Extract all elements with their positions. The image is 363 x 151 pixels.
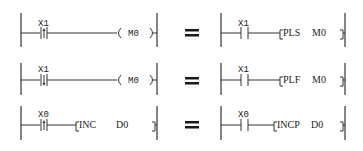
bracket-close-icon [340,122,343,131]
row-2-right: X1 PLF M0 [221,63,345,95]
row-3-left: X0 INC D0 [21,106,157,140]
equals-sign-icon [185,77,199,85]
row-3-right: X0 INCP D0 [221,106,345,140]
bracket-close-icon [152,122,155,131]
coil-close-icon [150,28,153,38]
equals-sign-icon [185,121,199,129]
operand-label: D0 [311,119,323,130]
bracket-close-icon [340,77,343,86]
row-2-left: X1 M0 [21,63,157,95]
contact-label: X0 [238,110,249,120]
operand-label: D0 [116,119,128,130]
row-1-left: X1 M0 [21,13,157,47]
contact-label: X1 [38,65,49,75]
falling-edge-contact-icon [41,74,47,86]
operand-label: M0 [312,27,326,38]
contact-label: X1 [238,65,249,75]
coil-open-icon [119,75,122,85]
equals-sign-icon [185,29,199,37]
coil-open-icon [119,28,122,38]
instruction-label: INC [79,119,97,130]
bracket-close-icon [340,30,343,39]
contact-label: X1 [238,19,249,29]
instruction-label: PLS [283,27,300,38]
row-1-right: X1 PLS M0 [221,13,345,47]
normally-open-contact-icon [241,119,248,131]
instruction-label: PLF [283,74,301,85]
coil-close-icon [150,75,153,85]
ladder-diagram: X1 M0 X1 PLS M0 [0,0,363,151]
instruction-label: INCP [277,119,300,130]
coil-label: M0 [128,76,139,86]
coil-label: M0 [128,29,139,39]
normally-open-contact-icon [241,74,248,86]
rising-edge-contact-icon [41,119,47,131]
contact-label: X0 [38,110,49,120]
operand-label: M0 [312,74,326,85]
